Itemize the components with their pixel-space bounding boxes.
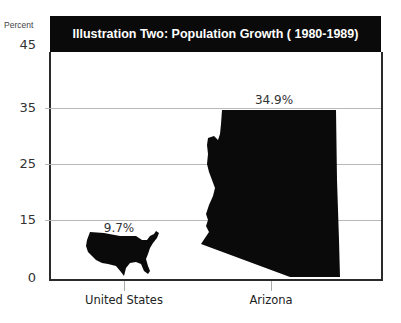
arizona-map-icon	[201, 110, 340, 277]
pictograph-layer	[0, 0, 401, 323]
x-tick-us	[124, 281, 125, 291]
value-label-arizona: 34.9%	[244, 93, 304, 107]
value-label-us: 9.7%	[89, 221, 149, 235]
x-label-arizona: Arizona	[211, 293, 331, 307]
us-map-icon	[86, 231, 159, 276]
x-tick-arizona	[271, 281, 272, 291]
x-label-us: United States	[64, 293, 184, 307]
